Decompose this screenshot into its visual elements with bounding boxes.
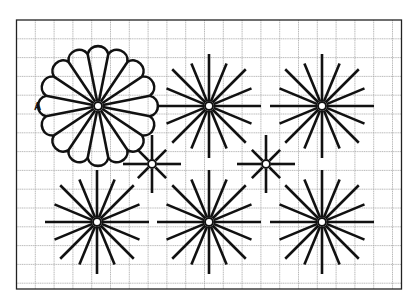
star-bottom-middle <box>157 170 261 274</box>
center-hole-icon <box>262 160 270 168</box>
star-top-right <box>270 54 374 158</box>
center-hole-icon <box>318 218 326 226</box>
small-star-left <box>123 135 181 193</box>
flower-label-a: A <box>34 101 41 112</box>
center-hole-icon <box>205 102 213 110</box>
stitch-shapes <box>38 46 374 274</box>
small-star-right <box>237 135 295 193</box>
spoke <box>156 168 167 179</box>
spoke <box>138 168 149 179</box>
spoke <box>252 168 263 179</box>
star-top-middle <box>157 54 261 158</box>
flower-a <box>38 46 158 166</box>
center-hole-icon <box>148 160 156 168</box>
stitch-diagram <box>0 0 417 298</box>
center-hole-icon <box>205 218 213 226</box>
star-bottom-left <box>45 170 149 274</box>
center-hole-icon <box>318 102 326 110</box>
star-bottom-right <box>270 170 374 274</box>
spoke <box>270 168 281 179</box>
center-hole-icon <box>94 102 102 110</box>
center-hole-icon <box>93 218 101 226</box>
